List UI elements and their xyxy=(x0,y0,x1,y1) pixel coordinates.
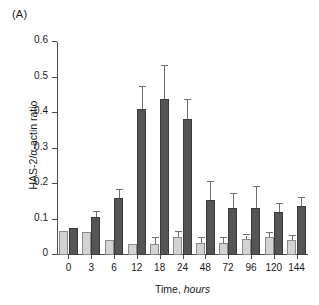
error-bar xyxy=(178,232,179,237)
y-tick-label: 0.6 xyxy=(34,34,48,45)
y-tick: 0.1 xyxy=(52,219,57,220)
x-tick-label: 24 xyxy=(177,262,188,273)
figure-panel-a: (A) HAS-2/α-actin ratio 00.10.20.30.40.5… xyxy=(0,0,319,305)
bar xyxy=(251,208,260,255)
y-tick: 0.6 xyxy=(52,41,57,42)
bar xyxy=(265,237,274,255)
x-tick-label: 3 xyxy=(88,262,94,273)
x-tick-label: 72 xyxy=(223,262,234,273)
error-bar xyxy=(292,236,293,241)
x-tick-label: 0 xyxy=(66,262,72,273)
error-bar-cap xyxy=(289,235,296,236)
error-bar xyxy=(201,238,202,243)
x-tick-label: 12 xyxy=(131,262,142,273)
bar xyxy=(105,240,114,255)
bar xyxy=(91,217,100,255)
error-bar-cap xyxy=(243,234,250,235)
bar xyxy=(150,244,159,255)
bar xyxy=(160,99,169,255)
x-axis-title-prefix: Time, xyxy=(155,283,181,295)
error-bar xyxy=(269,233,270,236)
y-tick: 0.3 xyxy=(52,148,57,149)
x-tick-label: 18 xyxy=(154,262,165,273)
error-bar xyxy=(301,198,302,205)
bar xyxy=(287,240,296,255)
error-bar xyxy=(246,236,247,240)
error-bar xyxy=(96,212,97,217)
y-tick-label: 0.1 xyxy=(34,212,48,223)
bar xyxy=(242,239,251,255)
error-bar xyxy=(142,87,143,110)
bar xyxy=(137,109,146,255)
x-tick-label: 96 xyxy=(245,262,256,273)
error-bar xyxy=(223,238,224,243)
error-bar xyxy=(279,204,280,211)
x-tick-label: 144 xyxy=(288,262,305,273)
y-tick-label: 0.4 xyxy=(34,105,48,116)
error-bar-cap xyxy=(220,237,227,238)
x-tick xyxy=(114,255,115,259)
error-bar xyxy=(164,66,165,99)
x-axis-title-unit: hours xyxy=(184,283,210,295)
x-tick xyxy=(251,255,252,259)
y-tick: 0.2 xyxy=(52,183,57,184)
x-tick-label: 120 xyxy=(265,262,282,273)
y-tick: 0 xyxy=(52,254,57,255)
x-tick-label: 48 xyxy=(200,262,211,273)
error-bar-cap xyxy=(161,65,168,66)
bar xyxy=(196,243,205,255)
bar xyxy=(228,208,237,255)
bar xyxy=(82,232,91,255)
error-bar-cap xyxy=(152,237,159,238)
x-tick xyxy=(274,255,275,259)
x-tick xyxy=(183,255,184,259)
x-tick xyxy=(228,255,229,259)
bar xyxy=(297,206,306,255)
x-tick xyxy=(68,255,69,259)
error-bar xyxy=(256,187,257,208)
y-tick-label: 0.2 xyxy=(34,176,48,187)
error-bar xyxy=(119,190,120,197)
y-tick-label: 0.3 xyxy=(34,141,48,152)
x-axis-title: Time, hours xyxy=(57,283,308,295)
error-bar xyxy=(155,238,156,244)
error-bar-cap xyxy=(230,193,237,194)
y-tick: 0.5 xyxy=(52,77,57,78)
panel-label: (A) xyxy=(12,8,27,20)
error-bar-cap xyxy=(139,86,146,87)
bar xyxy=(69,228,78,255)
bar xyxy=(114,198,123,256)
bar xyxy=(173,237,182,255)
y-tick: 0.4 xyxy=(52,112,57,113)
bar xyxy=(183,119,192,255)
error-bar-cap xyxy=(116,189,123,190)
error-bar-cap xyxy=(184,99,191,100)
error-bar-cap xyxy=(298,197,305,198)
error-bar xyxy=(187,100,188,118)
bar xyxy=(219,243,228,255)
error-bar-cap xyxy=(207,181,214,182)
y-axis-line xyxy=(57,42,58,255)
x-tick-label: 6 xyxy=(111,262,117,273)
error-bar xyxy=(233,194,234,207)
error-bar-cap xyxy=(175,231,182,232)
bar xyxy=(274,212,283,255)
error-bar-cap xyxy=(266,232,273,233)
x-tick xyxy=(91,255,92,259)
error-bar-cap xyxy=(198,237,205,238)
error-bar-cap xyxy=(93,211,100,212)
bar xyxy=(206,200,215,255)
error-bar xyxy=(210,182,211,200)
error-bar-cap xyxy=(253,186,260,187)
x-tick xyxy=(160,255,161,259)
x-tick xyxy=(205,255,206,259)
bar xyxy=(59,231,68,255)
x-tick xyxy=(297,255,298,259)
x-tick xyxy=(137,255,138,259)
bar xyxy=(128,244,137,255)
y-tick-label: 0 xyxy=(42,247,48,258)
y-tick-label: 0.5 xyxy=(34,70,48,81)
plot-area: 00.10.20.30.40.50.6 03612182448729612014… xyxy=(57,42,308,255)
error-bar-cap xyxy=(276,203,283,204)
